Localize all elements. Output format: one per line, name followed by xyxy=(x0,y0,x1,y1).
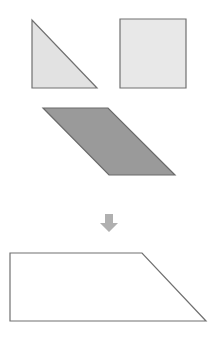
parallelogram-shape xyxy=(43,108,175,175)
trapezoid-result-shape xyxy=(10,253,206,321)
arrow-down-icon xyxy=(100,214,118,232)
diagram-canvas xyxy=(0,0,224,339)
triangle-shape xyxy=(32,20,97,88)
square-shape xyxy=(120,19,186,88)
